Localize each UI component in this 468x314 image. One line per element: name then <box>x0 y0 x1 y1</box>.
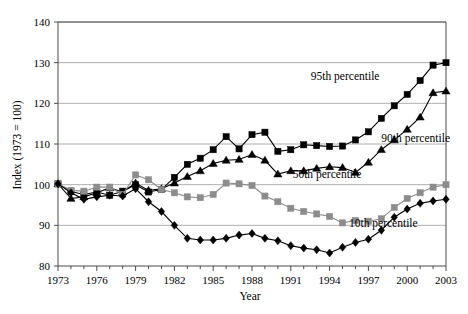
y-tick-label-80: 80 <box>39 260 51 272</box>
data-point-1995 <box>339 143 345 149</box>
y-tick-label-120: 120 <box>34 97 51 109</box>
data-point-1989 <box>262 129 268 135</box>
data-point-1994 <box>327 213 333 219</box>
data-point-1981 <box>158 186 164 192</box>
data-point-1992 <box>301 142 307 148</box>
data-point-1987 <box>236 181 242 187</box>
data-point-1992 <box>301 208 307 214</box>
data-point-1999 <box>391 204 397 210</box>
x-tick-label-1973: 1973 <box>47 274 70 286</box>
data-point-1991 <box>288 205 294 211</box>
y-tick-label-100: 100 <box>34 179 51 191</box>
x-tick-label-1994: 1994 <box>319 274 342 286</box>
data-point-1990 <box>275 199 281 205</box>
data-point-1987 <box>236 146 242 152</box>
data-point-1993 <box>314 211 320 217</box>
data-point-1985 <box>210 191 216 197</box>
y-axis-title: Index (1973 = 100) <box>11 100 24 189</box>
line-chart: 8090100110120130140 19731976197919821985… <box>0 0 468 314</box>
data-point-1991 <box>288 147 294 153</box>
x-tick-label-1991: 1991 <box>280 274 302 286</box>
y-tick-label-140: 140 <box>34 16 51 28</box>
x-tick-label-2003: 2003 <box>435 274 458 286</box>
data-point-1979 <box>133 172 139 178</box>
x-axis-title: Year <box>239 290 260 302</box>
data-point-1999 <box>391 103 397 109</box>
data-point-2000 <box>404 91 410 97</box>
x-tick-label-1988: 1988 <box>241 274 264 286</box>
data-point-1984 <box>197 155 203 161</box>
y-tick-label-90: 90 <box>39 219 51 231</box>
data-point-2003 <box>443 60 449 66</box>
data-point-1988 <box>249 182 255 188</box>
data-point-1982 <box>171 190 177 196</box>
y-tick-label-110: 110 <box>34 138 51 150</box>
data-point-1989 <box>262 193 268 199</box>
data-point-1986 <box>223 134 229 140</box>
x-tick-label-1976: 1976 <box>86 274 109 286</box>
data-point-1997 <box>365 129 371 135</box>
data-point-1975 <box>81 188 87 194</box>
y-tick-label-130: 130 <box>34 57 51 69</box>
data-point-1990 <box>275 148 281 154</box>
annotation-10th-percentile: 10th percentile <box>349 217 418 230</box>
y-axis-title-label: Index (1973 = 100) <box>11 100 24 189</box>
data-point-1985 <box>210 147 216 153</box>
annotation-50th-percentile: 50th percentile <box>293 168 362 181</box>
data-point-1995 <box>339 220 345 226</box>
data-point-1996 <box>352 137 358 143</box>
x-tick-label-1979: 1979 <box>125 274 148 286</box>
data-point-1976 <box>94 184 100 190</box>
data-point-2000 <box>404 195 410 201</box>
data-point-1993 <box>314 143 320 149</box>
plot-background <box>0 0 468 314</box>
data-point-2002 <box>430 62 436 68</box>
x-tick-label-1985: 1985 <box>202 274 225 286</box>
annotation-90th-percentile: 90th percentile <box>381 132 450 145</box>
x-axis-title-label: Year <box>239 290 260 302</box>
data-point-2001 <box>417 190 423 196</box>
data-point-2001 <box>417 77 423 83</box>
data-point-1980 <box>145 177 151 183</box>
data-point-1983 <box>184 161 190 167</box>
x-tick-label-2000: 2000 <box>396 274 419 286</box>
chart-container: 8090100110120130140 19731976197919821985… <box>0 0 468 314</box>
x-tick-label-1982: 1982 <box>163 274 185 286</box>
data-point-1988 <box>249 132 255 138</box>
data-point-2002 <box>430 184 436 190</box>
data-point-1986 <box>223 180 229 186</box>
data-point-1984 <box>197 195 203 201</box>
data-point-1983 <box>184 194 190 200</box>
data-point-1998 <box>378 115 384 121</box>
x-tick-label-1997: 1997 <box>357 274 380 286</box>
annotation-95th-percentile: 95th percentile <box>311 70 380 83</box>
data-point-1994 <box>327 143 333 149</box>
data-point-1977 <box>107 184 113 190</box>
data-point-2003 <box>443 182 449 188</box>
